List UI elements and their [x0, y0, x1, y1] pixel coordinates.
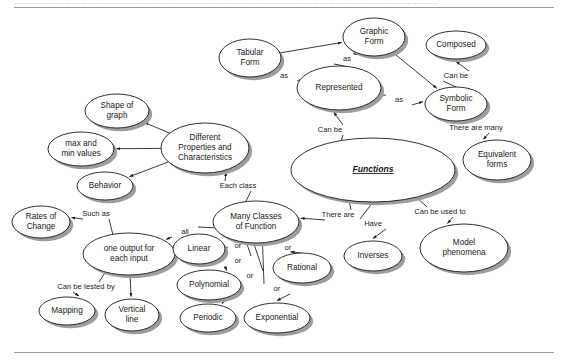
node-tabular_form[interactable]: TabularForm: [219, 39, 284, 80]
node-model_phenomena[interactable]: Modelphenomena: [420, 224, 511, 275]
node-rational[interactable]: Rational: [273, 253, 334, 286]
link-label-classes_or_rational: or: [285, 243, 292, 252]
node-max_min[interactable]: max andmin values: [48, 132, 117, 169]
node-represented[interactable]: Represented: [297, 66, 384, 113]
node-functions[interactable]: Functions: [291, 138, 458, 205]
node-shape_of_graph[interactable]: Shape ofgraph: [85, 94, 152, 131]
node-polynomial[interactable]: Polynomial: [177, 270, 244, 303]
node-mapping[interactable]: Mapping: [39, 297, 98, 328]
link-label-symbolic_there_are_many: There are many: [449, 123, 503, 132]
concept-map-canvas: TabularFormGraphicFormComposedRepresente…: [0, 0, 567, 362]
node-label: Functions: [352, 164, 393, 174]
node-label: Inverses: [358, 251, 389, 260]
node-label: Polynomial: [189, 280, 229, 289]
link-label-classes_or_exponential: or: [274, 284, 281, 293]
node-label: Exponential: [256, 313, 299, 322]
node-one_output[interactable]: one output foreach input: [83, 233, 178, 278]
node-label: Mapping: [51, 306, 83, 315]
link-label-functions_can_be_used: Can be used to: [414, 207, 466, 216]
node-vertical_line[interactable]: Verticalline: [105, 299, 162, 334]
node-label: Linear: [188, 244, 211, 253]
link-label-classes_all: all: [181, 227, 189, 236]
node-label: Rational: [287, 263, 317, 272]
link-label-functions_have: Have: [364, 219, 382, 228]
link-label-classes_or_periodic: or: [247, 271, 254, 280]
link-label-classes_or_linear: or: [235, 241, 242, 250]
link-label-classes_or_polynomial: or: [235, 256, 242, 265]
link-label-symbolic_can_be: Can be: [444, 71, 469, 80]
link-label-functions_there_are: There are: [322, 210, 355, 219]
link-label-represented_as_graphic: as: [343, 54, 351, 63]
node-rates_of_change[interactable]: Rates ofChange: [12, 206, 73, 241]
node-label: max andmin values: [61, 139, 100, 158]
link-label-functions_can_be: Can be: [318, 125, 343, 134]
concept-map-page: ~~~~~~~~~~~~~~~~~~~~~~~~~~~~~~~~~~~~~~~~…: [0, 0, 567, 362]
node-label: Rates ofChange: [26, 212, 57, 231]
link-label-output_such_as: Such as: [82, 209, 110, 218]
node-label: Composed: [436, 40, 476, 49]
node-periodic[interactable]: Periodic: [180, 304, 239, 335]
node-label: Behavior: [89, 181, 122, 190]
node-label: Many Classesof Function: [230, 212, 281, 231]
node-label: one output foreach input: [104, 244, 155, 263]
node-graphic_form[interactable]: GraphicForm: [343, 18, 408, 59]
node-behavior[interactable]: Behavior: [77, 172, 136, 203]
node-exponential[interactable]: Exponential: [244, 303, 313, 336]
node-many_classes[interactable]: Many Classesof Function: [213, 201, 302, 246]
node-label: Periodic: [193, 313, 223, 322]
link-label-represented_as_tabular: as: [280, 71, 288, 80]
node-composed[interactable]: Composed: [426, 31, 489, 62]
node-symbolic_form[interactable]: SymbolicForm: [425, 87, 490, 124]
node-different_props[interactable]: DifferentProperties andCharacteristics: [161, 123, 252, 176]
node-equivalent[interactable]: Equivalentforms: [463, 140, 534, 183]
node-label: Represented: [316, 83, 363, 92]
node-inverses[interactable]: Inverses: [344, 241, 405, 274]
link-label-classes_each_class: Each class: [220, 181, 257, 190]
link-label-represented_as_symbolic: as: [395, 95, 403, 104]
link-label-output_tested_by: Can be tested by: [57, 282, 115, 291]
node-linear[interactable]: Linear: [173, 234, 228, 267]
